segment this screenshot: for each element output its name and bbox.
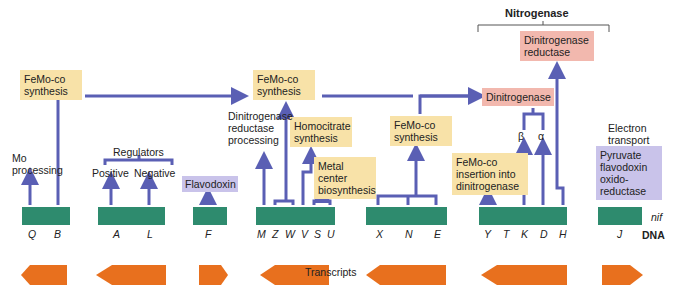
transcript-YH (481, 265, 567, 285)
femo-co-synthesis-box-3: FeMo-co synthesis (390, 116, 452, 146)
gene-block-YH (479, 207, 567, 225)
femo-co-synthesis-box-2: FeMo-co synthesis (253, 70, 315, 100)
gene-label-H: H (559, 228, 567, 240)
gene-label-E: E (434, 228, 441, 240)
flavodoxin-box: Flavodoxin (182, 176, 238, 192)
gene-label-V: V (301, 228, 308, 240)
gene-label-S: S (314, 228, 321, 240)
mo-processing-label: Mo processing (12, 152, 54, 176)
gene-label-A: A (113, 228, 120, 240)
femo-co-synthesis-box-1: FeMo-co synthesis (20, 70, 82, 100)
gene-block-XE (366, 207, 447, 225)
gene-label-B: B (54, 228, 61, 240)
gene-block-F (193, 207, 227, 225)
gene-label-Z: Z (272, 228, 278, 240)
transcript-QB (21, 265, 67, 285)
femo-co-insertion-box: FeMo-co insertion into dinitrogenase (452, 153, 528, 195)
nif-label: nif (651, 211, 662, 223)
negative-label: Negative (134, 167, 175, 179)
nitrogenase-title: Nitrogenase (505, 7, 569, 19)
gene-block-J (598, 207, 642, 225)
electron-transport-label: Electron transport (608, 122, 668, 146)
gene-label-W: W (285, 228, 295, 240)
positive-label: Positive (92, 167, 129, 179)
gene-label-L: L (147, 228, 153, 240)
gene-block-QB (22, 207, 70, 225)
gene-label-J: J (617, 228, 622, 240)
gene-label-U: U (327, 228, 335, 240)
gene-label-Q: Q (28, 228, 36, 240)
homocitrate-synthesis-box: Homocitrate synthesis (290, 117, 352, 147)
gene-label-M: M (257, 228, 266, 240)
beta-label: β (518, 130, 524, 142)
transcript-XE (366, 265, 446, 285)
metal-center-biosynthesis-box: Metal center biosynthesis (314, 157, 376, 199)
gene-label-N: N (405, 228, 413, 240)
gene-label-F: F (205, 228, 211, 240)
gene-label-X: X (376, 228, 383, 240)
transcript-J (602, 265, 643, 285)
gene-block-MU (256, 207, 335, 225)
regulators-label: Regulators (113, 146, 164, 158)
dinitrogenase-reductase-processing-label: Dinitrogenase reductase processing (228, 110, 278, 146)
gene-block-AL (98, 207, 165, 225)
transcript-AL (96, 265, 166, 285)
transcript-F (199, 265, 228, 285)
gene-label-T: T (503, 228, 509, 240)
gene-label-K: K (521, 228, 528, 240)
gene-label-D: D (540, 228, 548, 240)
pyruvate-flavodoxin-box: Pyruvate flavodoxin oxido-reductase (596, 146, 662, 200)
gene-label-Y: Y (484, 228, 491, 240)
transcripts-label: Transcripts (305, 266, 357, 278)
dinitrogenase-reductase-box: Dinitrogenase reductase (520, 31, 594, 61)
alpha-label: α (538, 130, 544, 142)
dna-label: DNA (642, 229, 665, 241)
dinitrogenase-box: Dinitrogenase (482, 88, 554, 106)
